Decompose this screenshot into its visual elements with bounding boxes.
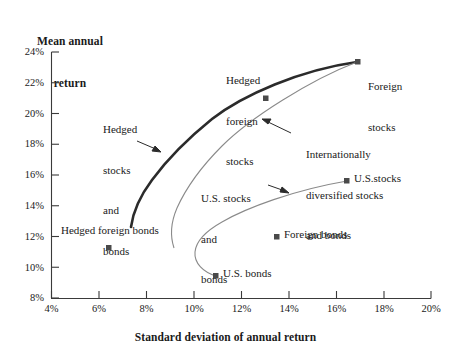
annotation-hedged-stocks-and-bonds: Hedged stocks and bonds (103, 96, 137, 285)
chart-container: Mean annual return (0, 0, 451, 352)
annotation-foreign-stocks-line1: Foreign (368, 80, 402, 94)
y-tick-label-24: 24% (12, 46, 44, 57)
x-axis-title: Standard deviation of annual return (0, 330, 451, 344)
x-tick-label-18: 18% (364, 303, 404, 314)
x-tick-label-20: 20% (411, 303, 451, 314)
annotation-hedged-foreign-stocks-line1: Hedged (226, 74, 260, 88)
x-tick-label-6: 6% (79, 303, 119, 314)
y-tick-label-10: 10% (12, 262, 44, 273)
y-tick-label-12: 12% (12, 231, 44, 242)
x-tick-label-14: 14% (269, 303, 309, 314)
annotation-hedged-stocks-and-bonds-line1: Hedged (103, 123, 137, 137)
point-label-us-bonds: U.S. bonds (223, 267, 272, 281)
y-tick-label-18: 18% (12, 138, 44, 149)
y-tick-label-22: 22% (12, 77, 44, 88)
annotation-us-stocks-and-bonds-line1: U.S. stocks (201, 192, 251, 206)
y-tick-label-16: 16% (12, 169, 44, 180)
annotation-hedged-stocks-and-bonds-line2: stocks (103, 164, 137, 178)
annotation-internationally-diversified-line2: diversified stocks (306, 189, 383, 203)
marker-hedged-foreign-stocks (263, 96, 269, 102)
annotation-hedged-stocks-and-bonds-line4: bonds (103, 245, 137, 259)
y-tick-label-20: 20% (12, 108, 44, 119)
annotation-hedged-stocks-and-bonds-line3: and (103, 204, 137, 218)
marker-foreign-stocks (355, 59, 361, 65)
x-tick-label-4: 4% (32, 303, 72, 314)
y-tick-label-14: 14% (12, 200, 44, 211)
annotation-internationally-diversified: Internationally diversified stocks and b… (306, 121, 383, 270)
arrow-internationally-diversified (266, 121, 291, 133)
annotation-us-stocks-and-bonds: U.S. stocks and bonds (201, 165, 251, 314)
point-label-foreign-bonds: Foreign bonds (284, 228, 347, 242)
marker-foreign-bonds (274, 234, 280, 240)
x-tick-label-16: 16% (317, 303, 357, 314)
annotation-hedged-foreign-stocks-line2: foreign (226, 115, 260, 129)
x-tick-label-8: 8% (127, 303, 167, 314)
y-tick-label-8: 8% (12, 292, 44, 303)
annotation-us-stocks-and-bonds-line2: and (201, 233, 251, 247)
point-label-us-stocks: U.S.stocks (354, 172, 401, 186)
point-label-hedged-foreign-bonds: Hedged foreign bonds (61, 224, 159, 238)
annotation-internationally-diversified-line1: Internationally (306, 148, 383, 162)
y-axis-ticks (52, 52, 60, 298)
